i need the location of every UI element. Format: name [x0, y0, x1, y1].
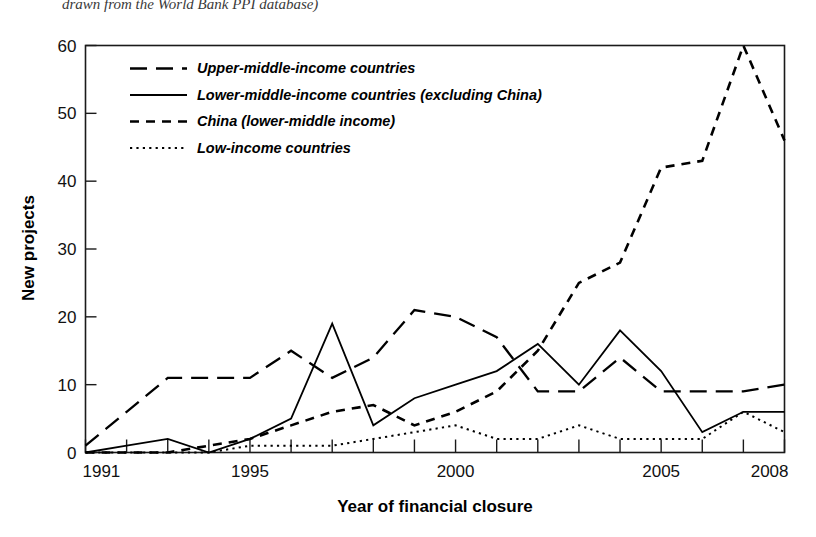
y-tick-label: 60 — [58, 37, 77, 56]
series-line-1 — [86, 324, 785, 453]
x-tick-label: 1991 — [83, 462, 121, 481]
y-axis-ticks — [86, 46, 97, 453]
legend-label-0: Upper-middle-income countries — [197, 60, 415, 76]
legend-label-3: Low-income countries — [197, 140, 351, 156]
y-tick-label: 50 — [58, 104, 77, 123]
line-chart: 0102030405060 19911995200020052008 New p… — [0, 0, 816, 537]
y-tick-label: 30 — [58, 240, 77, 259]
y-axis-tick-labels: 0102030405060 — [58, 37, 77, 463]
y-tick-label: 0 — [67, 444, 76, 463]
x-tick-label: 1995 — [231, 462, 269, 481]
legend-label-1: Lower-middle-income countries (excluding… — [197, 87, 542, 103]
y-tick-label: 40 — [58, 172, 77, 191]
x-tick-label: 2000 — [437, 462, 475, 481]
x-tick-label: 2005 — [642, 462, 680, 481]
series-line-0 — [86, 310, 785, 446]
y-tick-label: 10 — [58, 376, 77, 395]
legend-label-2: China (lower-middle income) — [197, 113, 395, 129]
y-axis-title: New projects — [19, 195, 38, 301]
x-axis-title: Year of financial closure — [337, 497, 533, 516]
data-series-group — [86, 46, 785, 453]
y-tick-label: 20 — [58, 308, 77, 327]
chart-canvas: 0102030405060 19911995200020052008 New p… — [0, 0, 816, 537]
chart-legend: Upper-middle-income countriesLower-middl… — [130, 60, 542, 156]
x-axis-tick-labels: 19911995200020052008 — [83, 462, 789, 481]
x-tick-label: 2008 — [751, 462, 789, 481]
